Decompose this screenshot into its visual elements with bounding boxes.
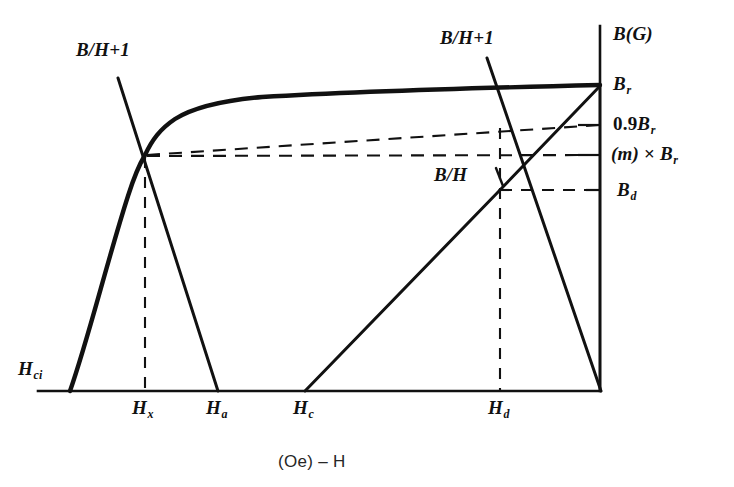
label-m-times-br: (m) × Br <box>611 144 678 163</box>
label-hc: Hc <box>293 398 314 417</box>
label-b-over-h: B/H <box>434 165 467 184</box>
label-y-axis-title: B(G) <box>613 24 653 43</box>
load-line-bh-plus-1-right <box>487 58 601 391</box>
bh-demagnetization-figure: B/H+1 B/H+1 B/H B(G) Br 0.9Br (m) × Br B… <box>0 0 734 487</box>
label-br: Br <box>613 74 631 93</box>
label-x-axis-title: (Oe) – H <box>278 452 346 472</box>
label-b-over-h-plus-1-left: B/H+1 <box>76 40 130 59</box>
label-hx: Hx <box>132 398 153 417</box>
label-bd: Bd <box>617 180 636 199</box>
label-b-over-h-plus-1-right: B/H+1 <box>440 28 494 47</box>
label-hci: Hci <box>18 359 42 378</box>
label-ha: Ha <box>206 398 227 417</box>
load-line-bh-lower <box>305 190 500 391</box>
label-hd: Hd <box>488 398 509 417</box>
label-0-9-br: 0.9Br <box>613 114 655 133</box>
dashed-0-9-br-line <box>147 125 600 155</box>
